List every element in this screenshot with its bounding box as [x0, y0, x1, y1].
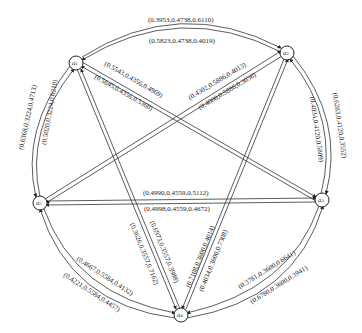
node-label-a3: a₃ [318, 196, 325, 203]
node-label-a4: a₄ [177, 311, 184, 318]
label-a1-a2-inner: (0.5823,0.4738,0.4019) [149, 37, 216, 45]
label-a1-a5-outer: (0.6368,0.3224,0.4713) [17, 84, 39, 151]
directed-graph-diagram: (0.3953,0.4738,0.6110) (0.5823,0.4738,0.… [0, 0, 362, 333]
node-label-a1: a₁ [72, 59, 78, 66]
label-a5-a3-upper: (0.4990,0.4559,0.5112) [143, 189, 209, 197]
node-label-a2: a₂ [283, 49, 290, 56]
edge-a5-a2-upper [45, 51, 281, 199]
node-a1: a₁ [69, 56, 83, 70]
node-a3: a₃ [315, 193, 329, 207]
node-a5: a₅ [33, 196, 47, 210]
node-a2: a₂ [280, 46, 294, 60]
label-a2-a3-outer: (0.6283,0.4120,0.3552) [331, 92, 348, 159]
edge-a5-a3-upper [46, 198, 316, 201]
edge-a4-a2-right [186, 59, 288, 309]
node-label-a5: a₅ [36, 199, 43, 206]
node-a4: a₄ [174, 308, 188, 322]
label-a1-a2-outer: (0.3953,0.4738,0.6110) [148, 16, 214, 24]
label-a3-a4-inner: (0.3781,0.3600,0.6641) [237, 249, 298, 291]
label-a1-a3-lower: (0.5645,0.4356,0.5360) [93, 73, 155, 113]
edge-a1-a3-upper [82, 62, 316, 197]
label-a5-a3-lower: (0.4998,0.4559,0.4672) [144, 205, 211, 213]
